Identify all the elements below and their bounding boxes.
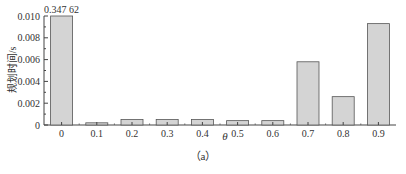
x-tick-label: 0.7 <box>302 128 315 139</box>
y-tick-label: 0.006 <box>18 54 41 65</box>
figure-caption: （a） <box>0 147 406 163</box>
y-tick-label: 0.004 <box>18 76 41 87</box>
y-axis-title: 规划时间/s <box>6 47 18 94</box>
y-tick-label: 0.008 <box>18 32 41 43</box>
x-tick-label: 0.2 <box>126 128 139 139</box>
bar <box>297 62 319 125</box>
x-tick-label: 0.6 <box>267 128 280 139</box>
y-tick-label: 0 <box>35 120 40 131</box>
bar <box>51 16 73 125</box>
x-tick-label: 0.1 <box>91 128 104 139</box>
x-tick-label: 0.8 <box>337 128 350 139</box>
y-tick-label: 0.010 <box>18 11 41 22</box>
x-tick-label: 0 <box>59 128 64 139</box>
bar <box>332 97 354 125</box>
bar-value-annotation: 0.347 62 <box>44 4 79 15</box>
bar <box>367 24 389 125</box>
x-tick-label: 0.9 <box>372 128 385 139</box>
x-tick-label: 0.4 <box>196 128 209 139</box>
x-tick-label: 0.3 <box>161 128 174 139</box>
x-axis-title: θ <box>210 130 240 142</box>
y-tick-label: 0.002 <box>18 98 41 109</box>
